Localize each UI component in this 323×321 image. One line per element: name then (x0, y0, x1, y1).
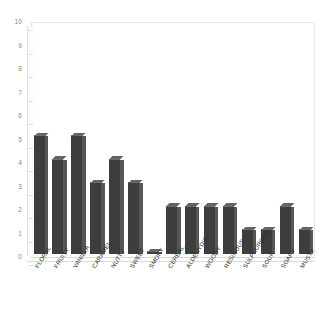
y-axis-tick-label: 9 (18, 42, 22, 49)
bar-side-face (139, 183, 143, 254)
y-axis-tick-label: 3 (18, 183, 22, 190)
x-axis: FLORALFRUITYVANILLACARAMELNUTTYSWEETSMOK… (31, 266, 315, 321)
bar[interactable] (52, 159, 63, 254)
bar[interactable] (185, 206, 196, 254)
bar-side-face (272, 230, 276, 254)
y-axis-tick-label: 8 (18, 66, 22, 73)
y-axis-tick-label: 4 (18, 160, 22, 167)
bar[interactable] (223, 206, 234, 254)
bar[interactable] (280, 206, 291, 254)
bar[interactable] (204, 206, 215, 254)
y-axis-tick-label: 2 (18, 207, 22, 214)
y-axis-tick-label: 1 (18, 230, 22, 237)
bar-side-face (120, 160, 124, 254)
bar[interactable] (90, 182, 101, 254)
bar[interactable] (128, 182, 139, 254)
bar-side-face (45, 136, 49, 254)
bars-container (31, 22, 315, 262)
y-axis-tick-label: 7 (18, 89, 22, 96)
y-axis: 012345678910 (0, 0, 26, 321)
bar-group (71, 136, 90, 258)
y-axis-tick-label: 10 (15, 19, 22, 26)
bar-group (52, 159, 71, 257)
bar-group (34, 136, 53, 258)
bar[interactable] (71, 135, 82, 254)
y-axis-tick-label: 5 (18, 136, 22, 143)
bar-chart: 012345678910 FLORALFRUITYVANILLACARAMELN… (0, 0, 323, 321)
bar[interactable] (109, 159, 120, 254)
y-axis-tick-label: 0 (18, 254, 22, 261)
y-axis-tick-label: 6 (18, 113, 22, 120)
bar[interactable] (34, 135, 45, 254)
bar-group (128, 183, 147, 258)
bar[interactable] (166, 206, 177, 254)
bar-side-face (82, 136, 86, 254)
bar-side-face (63, 160, 67, 254)
